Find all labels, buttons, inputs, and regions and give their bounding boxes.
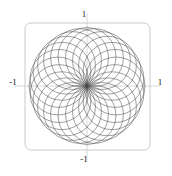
tick-label-bottom: -1 [80, 155, 88, 164]
tick-label-right: 1 [158, 78, 163, 87]
plot-canvas [0, 0, 172, 176]
tick-label-left: -1 [9, 78, 17, 87]
tick-label-top: 1 [82, 10, 87, 19]
plot-figure: 1 -1 -1 1 [0, 0, 172, 176]
